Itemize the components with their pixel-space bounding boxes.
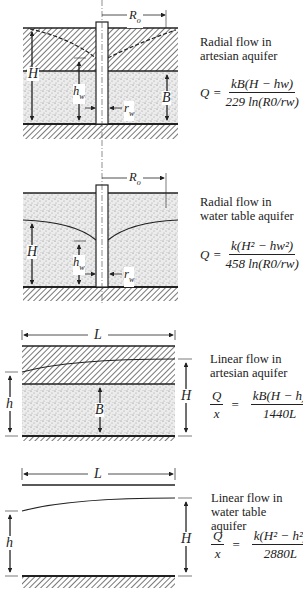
label-hw: hw [73,84,85,104]
linear-water-table-diagram [5,468,192,588]
label-Ro: Ro [127,8,143,28]
label-H: H [181,532,191,546]
bedrock-layer [23,124,178,139]
label-B: B [162,91,171,105]
caption-radial-artesian: Radial flow inartesian aquifer [200,35,277,63]
label-L: L [91,467,105,481]
linear-artesian-diagram [5,330,192,441]
label-h: h [6,536,13,550]
caption-linear-water-table: Linear flow inwater table aquifer [211,491,303,533]
label-Ro: Ro [127,170,143,190]
equation-radial-artesian: Q = kB(H − hw)229 ln(R0/rw) [200,76,299,109]
radial-artesian-diagram [23,0,178,140]
equation-linear-artesian: Qx = kB(H − h)1440L [210,388,303,421]
caption-radial-water-table: Radial flow inwater table aquifer [200,195,294,223]
label-L: L [91,328,105,342]
label-H: H [27,67,39,81]
label-H: H [27,245,37,259]
equation-linear-water-table: Qx = k(H² − h²)2880L [211,528,303,561]
label-B: B [95,403,104,417]
caption-linear-artesian: Linear flow inartesian aquifer [210,352,287,380]
label-h: h [6,397,13,411]
label-rw: rw [124,267,134,287]
radial-water-table-diagram [23,140,178,305]
label-rw: rw [124,101,134,121]
label-hw: hw [73,255,85,275]
equation-radial-water-table: Q = k(H² − hw²)458 ln(R0/rw) [200,238,299,271]
label-H: H [181,389,191,403]
